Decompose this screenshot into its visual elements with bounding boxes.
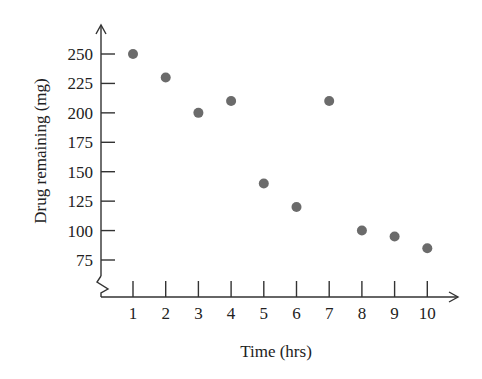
data-point (422, 243, 432, 253)
x-tick-label: 5 (260, 304, 269, 323)
x-axis-ticks: 12345678910 (129, 281, 436, 323)
x-tick-label: 3 (194, 304, 203, 323)
y-tick-label: 225 (68, 74, 94, 93)
x-axis-label: Time (hrs) (240, 342, 312, 361)
data-point (324, 96, 334, 106)
x-tick-label: 9 (390, 304, 399, 323)
x-tick-label: 8 (358, 304, 367, 323)
y-tick-label: 75 (76, 251, 93, 270)
data-points (128, 49, 432, 253)
data-point (226, 96, 236, 106)
data-point (292, 202, 302, 212)
scatter-plot: 75100125150175200225250 12345678910 Time… (0, 0, 482, 379)
data-point (357, 226, 367, 236)
y-tick-label: 175 (68, 133, 94, 152)
y-tick-label: 150 (68, 163, 94, 182)
y-axis-ticks: 75100125150175200225250 (68, 45, 116, 270)
x-tick-label: 1 (129, 304, 138, 323)
y-tick-label: 200 (68, 104, 94, 123)
x-tick-label: 6 (292, 304, 301, 323)
x-tick-label: 7 (325, 304, 334, 323)
y-tick-label: 250 (68, 45, 94, 64)
y-tick-label: 100 (68, 222, 94, 241)
data-point (193, 108, 203, 118)
axes (96, 25, 458, 302)
x-tick-label: 2 (161, 304, 170, 323)
data-point (128, 49, 138, 59)
x-tick-label: 10 (419, 304, 436, 323)
data-point (390, 231, 400, 241)
x-tick-label: 4 (227, 304, 236, 323)
data-point (259, 178, 269, 188)
y-tick-label: 125 (68, 192, 94, 211)
y-axis-label: Drug remaining (mg) (31, 78, 50, 223)
axis-break-icon (97, 276, 108, 297)
data-point (161, 73, 171, 83)
